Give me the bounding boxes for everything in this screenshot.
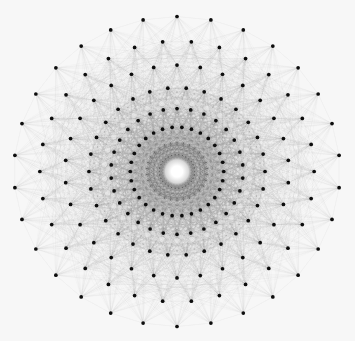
graph-figure: E8 root system — Gosset 4_21 polytope, C… bbox=[0, 0, 355, 341]
e8-projection-canvas bbox=[0, 0, 355, 341]
